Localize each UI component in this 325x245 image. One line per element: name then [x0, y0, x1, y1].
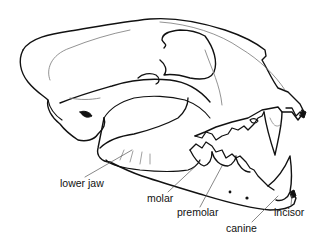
upper-incisor — [300, 110, 306, 118]
mental-foramen-1 — [229, 191, 232, 194]
lower-molar — [190, 150, 212, 166]
occipital-outline — [20, 50, 104, 141]
upper-canine-inner — [270, 118, 280, 126]
label-canine: canine — [226, 223, 257, 234]
mental-foramen-2 — [245, 196, 248, 199]
zygomatic-arch-lower — [104, 96, 210, 118]
label-molar: molar — [147, 193, 173, 204]
leader-incisor — [291, 196, 292, 205]
leader-lower-jaw — [85, 150, 132, 177]
jaw-muscle-lines — [120, 150, 150, 164]
lower-incisor — [290, 190, 296, 198]
temporal-line — [49, 30, 130, 80]
leader-premolar — [200, 166, 222, 207]
label-lower-jaw: lower jaw — [60, 178, 104, 189]
label-premolar: premolar — [177, 207, 218, 218]
lower-canine — [268, 156, 292, 201]
coronoid-process — [100, 98, 188, 148]
leader-molar — [168, 162, 200, 192]
label-incisor: incisor — [274, 207, 304, 218]
lower-jaw-top — [106, 160, 200, 172]
upper-canine — [264, 112, 282, 155]
upper-teeth — [195, 112, 264, 140]
orbit-outline — [160, 30, 216, 79]
auditory-bulla — [80, 111, 92, 117]
